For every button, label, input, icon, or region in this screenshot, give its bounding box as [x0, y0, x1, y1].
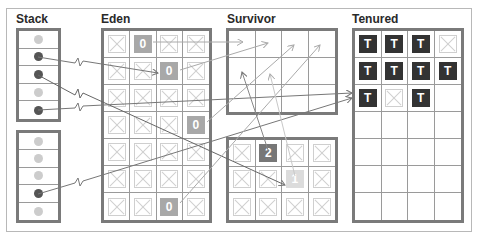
eden-cell — [104, 85, 130, 112]
eden-cell — [157, 166, 183, 193]
eden-cell — [104, 193, 130, 220]
survivor-from-cell — [229, 58, 256, 85]
eden-cell — [130, 166, 156, 193]
live-object-age-0: 0 — [160, 62, 178, 80]
survivor-from-cell — [229, 85, 256, 112]
garbage-x-icon — [108, 143, 126, 161]
stack-slot — [19, 203, 58, 220]
garbage-x-icon — [187, 89, 205, 107]
garbage-x-icon — [160, 143, 178, 161]
live-object-age-1: 1 — [286, 170, 304, 188]
eden-cell: 0 — [157, 193, 183, 220]
tenured-cell — [382, 166, 409, 193]
eden-cell — [104, 166, 130, 193]
stack-title: Stack — [16, 12, 48, 26]
garbage-x-icon — [259, 170, 277, 188]
eden-cell: 0 — [157, 58, 183, 85]
garbage-x-icon — [187, 170, 205, 188]
survivor-from-cell — [309, 31, 336, 58]
garbage-x-icon — [385, 89, 403, 107]
stack-slot — [19, 84, 58, 102]
eden-title: Eden — [101, 12, 130, 26]
tenured-cell: T — [408, 31, 435, 58]
eden-cell — [183, 166, 209, 193]
eden-cell — [104, 112, 130, 139]
survivor-from-cell — [256, 58, 283, 85]
tenured-cell — [408, 139, 435, 166]
live-object-age-0: 0 — [134, 35, 152, 53]
stack-slot — [19, 185, 58, 202]
stack-slot — [19, 101, 58, 119]
tenured-cell — [355, 112, 382, 139]
garbage-x-icon — [134, 62, 152, 80]
stack-slot — [19, 31, 58, 49]
survivor-to-cell — [256, 167, 283, 194]
live-reference-dot-icon — [34, 189, 43, 198]
garbage-x-icon — [160, 35, 178, 53]
garbage-x-icon — [134, 143, 152, 161]
garbage-x-icon — [134, 89, 152, 107]
tenured-cell: T — [355, 58, 382, 85]
eden-cell — [130, 112, 156, 139]
garbage-x-icon — [160, 170, 178, 188]
live-object-age-2: 2 — [259, 144, 277, 162]
survivor-from-cell — [229, 31, 256, 58]
tenured-cell — [355, 193, 382, 220]
tenured-cell — [435, 112, 462, 139]
garbage-x-icon — [233, 170, 251, 188]
tenured-cell — [408, 166, 435, 193]
survivor-from-cell — [256, 31, 283, 58]
tenured-object: T — [359, 35, 377, 53]
garbage-x-icon — [134, 198, 152, 216]
survivor-from-cell — [256, 85, 283, 112]
garbage-x-icon — [313, 144, 331, 162]
empty-reference-dot-icon — [34, 88, 43, 97]
garbage-x-icon — [108, 198, 126, 216]
eden-cell — [104, 31, 130, 58]
survivor-to-cell: 1 — [282, 167, 309, 194]
eden-cell — [104, 58, 130, 85]
garbage-x-icon — [108, 89, 126, 107]
garbage-x-icon — [134, 116, 152, 134]
tenured-object: T — [412, 35, 430, 53]
survivor-to-cell — [309, 193, 336, 220]
live-object-age-0: 0 — [187, 116, 205, 134]
tenured-object: T — [412, 62, 430, 80]
tenured-cell — [435, 85, 462, 112]
survivor-from-cell — [309, 58, 336, 85]
survivor-from-cell — [282, 58, 309, 85]
tenured-object: T — [359, 89, 377, 107]
survivor-space-to: 21 — [226, 137, 338, 223]
empty-reference-dot-icon — [34, 207, 43, 216]
garbage-x-icon — [439, 35, 457, 53]
eden-cell — [183, 31, 209, 58]
stack-slot — [19, 168, 58, 185]
survivor-to-cell — [256, 193, 283, 220]
eden-space: 0000 — [101, 28, 212, 223]
survivor-from-cell — [282, 85, 309, 112]
survivor-to-cell — [229, 167, 256, 194]
tenured-cell: T — [355, 31, 382, 58]
stack-frame-2 — [16, 130, 61, 223]
tenured-object: T — [439, 62, 457, 80]
garbage-x-icon — [160, 89, 178, 107]
tenured-title: Tenured — [352, 12, 398, 26]
garbage-x-icon — [187, 143, 205, 161]
tenured-cell: T — [435, 58, 462, 85]
tenured-cell — [382, 112, 409, 139]
tenured-cell — [382, 193, 409, 220]
tenured-cell — [355, 139, 382, 166]
tenured-object: T — [385, 62, 403, 80]
tenured-cell — [408, 112, 435, 139]
stack-slot — [19, 150, 58, 167]
survivor-title: Survivor — [227, 12, 276, 26]
garbage-x-icon — [108, 35, 126, 53]
garbage-x-icon — [233, 198, 251, 216]
survivor-to-cell — [282, 140, 309, 167]
garbage-x-icon — [187, 198, 205, 216]
tenured-object: T — [385, 35, 403, 53]
tenured-cell — [435, 166, 462, 193]
survivor-to-cell — [229, 140, 256, 167]
tenured-cell: T — [408, 85, 435, 112]
eden-cell: 0 — [183, 112, 209, 139]
